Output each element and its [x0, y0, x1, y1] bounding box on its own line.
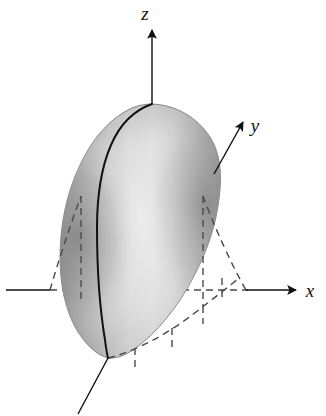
shaded-solid-group [58, 102, 222, 362]
y-axis-label: y [249, 115, 260, 136]
y-axis-negative-branch [78, 358, 108, 414]
x-axis-label: x [305, 280, 315, 301]
solid-region-figure: z y x [0, 0, 326, 416]
figure-container: z y x [0, 0, 326, 416]
solid-shading-overlays [58, 102, 222, 362]
solid-right-rim-shade [58, 102, 222, 362]
z-axis-label: z [140, 3, 149, 24]
y-axis-line [214, 122, 243, 174]
